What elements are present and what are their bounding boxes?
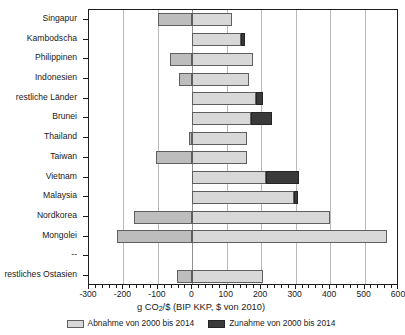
y-axis-label: Philippinen — [35, 53, 77, 62]
x-axis-tick — [253, 285, 254, 288]
chart-legend: Abnahme von 2000 bis 2014Zunahme von 200… — [0, 319, 402, 328]
bar-row — [89, 250, 397, 263]
x-axis-tick-label: -300 — [79, 289, 96, 299]
x-axis-tick — [246, 285, 247, 288]
bar-row — [89, 33, 397, 46]
y-axis-label: Singapur — [43, 14, 77, 23]
bar-segment-negative — [134, 211, 193, 224]
x-axis-tick-label: 100 — [219, 289, 233, 299]
bar-segment-negative — [158, 13, 192, 26]
x-axis-tick-label: 400 — [322, 289, 336, 299]
x-axis-tick-label: -200 — [114, 289, 131, 299]
bar-segment-decrease — [192, 92, 256, 105]
x-axis-tick-label: 200 — [253, 289, 267, 299]
y-axis-label: Kambodscha — [27, 34, 77, 43]
bar-segment-increase — [256, 92, 263, 105]
x-axis-tick — [109, 285, 110, 288]
x-axis-tick — [116, 285, 117, 288]
bar-row — [89, 171, 397, 184]
x-axis-tick — [288, 285, 289, 288]
y-axis-label: Mongolei — [42, 231, 77, 240]
bar-row — [89, 92, 397, 105]
x-axis-tick — [95, 285, 96, 288]
x-axis-title-pre: g CO — [137, 302, 159, 312]
bar-segment-decrease — [192, 53, 252, 66]
bar-segment-decrease — [192, 270, 263, 283]
x-axis-tick-label: 500 — [356, 289, 370, 299]
bar-row — [89, 230, 397, 243]
x-axis-tick — [164, 285, 165, 288]
bar-segment-negative — [117, 230, 193, 243]
x-axis-tick — [377, 285, 378, 288]
x-axis-tick — [240, 285, 241, 288]
y-axis-label: Taiwan — [50, 152, 77, 161]
x-axis-tick-label: 300 — [287, 289, 301, 299]
x-axis-tick-label: -100 — [148, 289, 165, 299]
y-axis-label: Malaysia — [43, 191, 77, 200]
y-axis-label: restliche Länder — [16, 93, 77, 102]
x-axis-tick — [370, 285, 371, 288]
x-axis-tick-label: 0 — [189, 289, 194, 299]
x-axis-tick — [178, 285, 179, 288]
legend-item: Abnahme von 2000 bis 2014 — [67, 319, 195, 328]
bar-row — [89, 270, 397, 283]
bar-segment-increase — [241, 33, 245, 46]
bar-row — [89, 151, 397, 164]
bar-segment-decrease — [192, 191, 294, 204]
x-axis-tick — [143, 285, 144, 288]
bar-segment-increase — [251, 112, 272, 125]
bar-segment-negative — [179, 73, 193, 86]
bar-segment-decrease — [192, 33, 240, 46]
x-axis-tick — [212, 285, 213, 288]
x-axis-tick — [384, 285, 385, 288]
bar-row — [89, 73, 397, 86]
x-axis-tick — [102, 285, 103, 288]
x-axis-tick — [336, 285, 337, 288]
x-axis-tick — [198, 285, 199, 288]
bar-row — [89, 53, 397, 66]
x-axis-tick — [350, 285, 351, 288]
bar-segment-decrease — [192, 73, 249, 86]
bar-segment-negative — [156, 151, 192, 164]
x-axis-tick — [184, 285, 185, 288]
bar-segment-decrease — [192, 112, 251, 125]
x-axis-tick — [308, 285, 309, 288]
x-axis-tick — [281, 285, 282, 288]
x-axis-tick — [150, 285, 151, 288]
bar-segment-decrease — [192, 151, 247, 164]
bar-row — [89, 211, 397, 224]
legend-label: Zunahme von 2000 bis 2014 — [229, 319, 335, 328]
x-axis-tick — [233, 285, 234, 288]
x-axis-title: g CO2/$ (BIP KKP, $ von 2010) — [0, 302, 402, 312]
y-axis-label: restliches Ostasien — [4, 270, 77, 279]
y-axis-category-labels: SingapurKambodschaPhilippinenIndonesienr… — [0, 9, 88, 285]
y-axis-label: Indonesien — [35, 73, 77, 82]
x-axis-tick-label: 600 — [391, 289, 405, 299]
y-axis-label: Vietnam — [46, 172, 77, 181]
legend-item: Zunahme von 2000 bis 2014 — [208, 319, 335, 328]
x-axis-tick-labels: -300-200-1000100200300400500600 — [0, 289, 402, 301]
legend-swatch-increase — [208, 320, 225, 328]
bar-segment-decrease — [192, 132, 247, 145]
x-axis-tick — [343, 285, 344, 288]
x-axis-tick — [322, 285, 323, 288]
bar-segment-negative — [177, 270, 193, 283]
x-axis-tick — [357, 285, 358, 288]
bar-segment-increase — [266, 171, 299, 184]
bar-segment-decrease — [192, 13, 232, 26]
x-axis-tick — [274, 285, 275, 288]
y-axis-label: Thailand — [44, 132, 77, 141]
bar-segment-decrease — [192, 230, 387, 243]
y-axis-label: Brunei — [52, 112, 77, 121]
x-axis-tick — [302, 285, 303, 288]
bar-row — [89, 132, 397, 145]
x-axis-tick — [205, 285, 206, 288]
x-axis-tick — [391, 285, 392, 288]
x-axis-tick — [315, 285, 316, 288]
x-axis-title-post: /$ (BIP KKP, $ von 2010) — [163, 302, 266, 312]
plot-area — [88, 9, 398, 285]
x-axis-tick — [129, 285, 130, 288]
legend-swatch-decrease — [67, 320, 84, 328]
x-axis-tick — [219, 285, 220, 288]
